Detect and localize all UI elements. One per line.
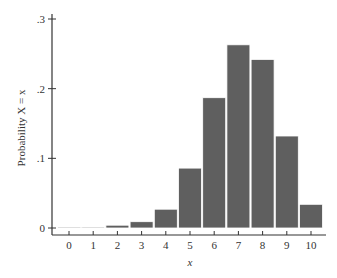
x-tick-label: 3 xyxy=(139,239,145,251)
bar-x-6 xyxy=(203,98,226,228)
bar-x-2 xyxy=(106,225,129,228)
y-tick-label: 0 xyxy=(40,222,46,234)
bar-x-4 xyxy=(154,209,177,228)
x-ticks-group: 012345678910 xyxy=(66,231,317,251)
y-axis-title: Probability X = x xyxy=(15,89,27,166)
x-tick-label: 6 xyxy=(211,239,217,251)
bar-x-5 xyxy=(179,168,202,228)
x-tick-label: 7 xyxy=(236,239,242,251)
x-tick-label: 4 xyxy=(163,239,169,251)
bar-x-8 xyxy=(251,59,274,228)
x-axis-title: x xyxy=(187,256,193,268)
bars-group xyxy=(58,45,323,228)
y-tick-label: .1 xyxy=(37,152,45,164)
x-tick-label: 10 xyxy=(306,239,318,251)
x-tick-label: 2 xyxy=(115,239,121,251)
bar-x-1 xyxy=(82,227,105,228)
x-tick-label: 9 xyxy=(284,239,290,251)
probability-bar-chart: 0.1.2.3 012345678910 x Probability X = x xyxy=(0,0,337,278)
x-tick-label: 8 xyxy=(260,239,266,251)
y-tick-label: .3 xyxy=(37,13,46,25)
bar-x-3 xyxy=(130,222,153,228)
bar-x-9 xyxy=(275,136,298,228)
y-ticks-group: 0.1.2.3 xyxy=(37,13,56,234)
x-tick-label: 5 xyxy=(187,239,193,251)
x-tick-label: 1 xyxy=(90,239,96,251)
x-tick-label: 0 xyxy=(66,239,72,251)
bar-x-10 xyxy=(300,204,323,228)
y-tick-label: .2 xyxy=(37,83,45,95)
bar-x-0 xyxy=(58,227,81,228)
bar-x-7 xyxy=(227,45,250,228)
